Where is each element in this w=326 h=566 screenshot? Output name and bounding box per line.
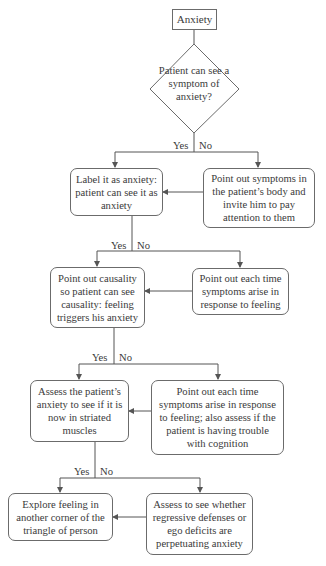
start-node-anxiety: Anxiety bbox=[172, 9, 217, 30]
decision-node-text: Patient can see a symptom of anxiety? bbox=[158, 64, 230, 103]
no-label-2: No bbox=[137, 240, 150, 252]
no-label-3: No bbox=[119, 352, 132, 364]
yes-label-1: Yes bbox=[173, 140, 188, 152]
no-label-1: No bbox=[199, 140, 212, 152]
yes-box-1: Label it as anxiety: patient can see it … bbox=[70, 168, 163, 216]
no-box-1: Point out symptoms in the patient’s body… bbox=[203, 168, 315, 228]
yes-box-3: Assess the patient’s anxiety to see if i… bbox=[30, 380, 129, 442]
yes-label-4: Yes bbox=[74, 466, 89, 478]
yes-label-3: Yes bbox=[92, 352, 107, 364]
yes-box-4: Explore feeling in another corner of the… bbox=[8, 493, 113, 541]
no-box-4: Assess to see whether regressive defense… bbox=[146, 493, 253, 555]
no-label-4: No bbox=[100, 466, 113, 478]
no-box-2: Point out each time symptoms arise in re… bbox=[192, 268, 289, 315]
no-box-3: Point out each time symptoms arise in re… bbox=[151, 380, 284, 455]
yes-label-2: Yes bbox=[111, 240, 126, 252]
yes-box-2: Point out causality so patient can see c… bbox=[50, 267, 145, 328]
